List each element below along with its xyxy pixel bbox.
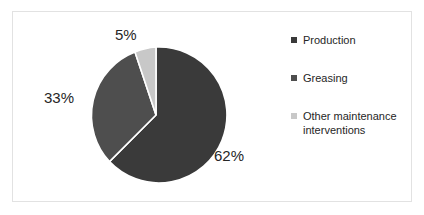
pie-svg: [85, 44, 227, 186]
legend-label-other: Other maintenance interventions: [303, 109, 411, 137]
legend-label-greasing: Greasing: [303, 71, 348, 85]
square-marker-icon: [291, 113, 297, 119]
pie-chart: 62% 33% 5% Production Greasing Other mai…: [0, 0, 424, 215]
legend-item-other[interactable]: Other maintenance interventions: [291, 109, 411, 137]
square-marker-icon: [291, 37, 297, 43]
legend-item-greasing[interactable]: Greasing: [291, 71, 411, 85]
data-label-production: 62%: [214, 147, 244, 164]
legend-item-production[interactable]: Production: [291, 33, 411, 47]
data-label-greasing: 33%: [44, 89, 74, 106]
legend: Production Greasing Other maintenance in…: [291, 33, 411, 161]
legend-label-production: Production: [303, 33, 356, 47]
data-label-other: 5%: [115, 26, 137, 43]
square-marker-icon: [291, 75, 297, 81]
